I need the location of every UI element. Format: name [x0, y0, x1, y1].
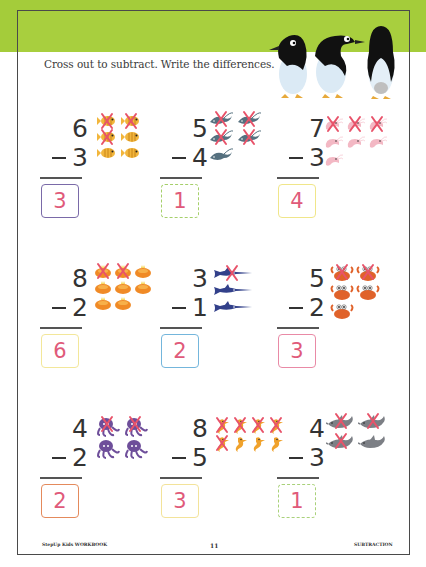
cross-out-mark-icon — [233, 416, 247, 434]
fish-icon[interactable] — [120, 146, 142, 160]
subtrahend: 2 — [72, 295, 88, 320]
fish-icon[interactable] — [96, 114, 118, 128]
fish-icon[interactable] — [96, 146, 118, 160]
answer-box[interactable]: 1 — [278, 484, 316, 518]
answer-box[interactable]: 6 — [41, 334, 79, 368]
cross-out-mark-icon — [370, 115, 384, 133]
answer-box[interactable]: 2 — [41, 484, 79, 518]
sea-urchin-icon[interactable] — [94, 264, 112, 278]
cross-out-mark-icon — [215, 434, 229, 452]
footer-series-title: StepUp Kids WORKBOOK — [42, 542, 107, 547]
stingray-icon[interactable] — [236, 112, 262, 128]
penguins-illustration — [265, 22, 405, 100]
minuend: 7 — [305, 116, 325, 141]
answer-box[interactable]: 1 — [161, 184, 199, 218]
pictures-group — [323, 117, 387, 169]
pictures-group — [94, 264, 152, 310]
pictures-group — [326, 414, 388, 452]
fish-icon[interactable] — [120, 130, 142, 144]
footer-page-number: 11 — [210, 542, 218, 549]
answer-box[interactable]: 3 — [278, 334, 316, 368]
crab-icon[interactable] — [330, 303, 354, 320]
minus-sign — [289, 157, 303, 159]
answer-box[interactable]: 2 — [161, 334, 199, 368]
swordfish-icon[interactable] — [212, 266, 252, 281]
pictures-group — [214, 418, 284, 452]
cross-out-mark-icon — [335, 263, 349, 281]
minuend: 8 — [68, 266, 88, 291]
minuend: 8 — [188, 416, 208, 441]
answer-line — [277, 477, 319, 479]
seahorse-icon[interactable] — [232, 436, 248, 452]
seahorse-icon[interactable] — [250, 418, 266, 434]
dolphin-icon[interactable] — [358, 434, 388, 452]
cross-out-mark-icon — [100, 128, 114, 146]
cross-out-mark-icon — [361, 263, 375, 281]
shrimp-icon[interactable] — [367, 117, 387, 133]
cross-out-mark-icon — [214, 110, 228, 128]
shrimp-icon[interactable] — [345, 117, 365, 133]
sea-urchin-icon[interactable] — [94, 296, 112, 310]
minuend: 4 — [68, 416, 88, 441]
shrimp-icon[interactable] — [345, 135, 365, 151]
subtrahend: 4 — [192, 145, 208, 170]
stingray-icon[interactable] — [208, 112, 234, 128]
stingray-icon[interactable] — [236, 130, 262, 146]
cross-out-mark-icon — [269, 416, 283, 434]
sea-urchin-icon[interactable] — [94, 280, 112, 294]
octopus-icon[interactable] — [94, 417, 120, 437]
pictures-group — [330, 265, 380, 320]
shrimp-icon[interactable] — [323, 135, 343, 151]
cross-out-mark-icon — [124, 112, 138, 130]
cross-out-mark-icon — [334, 432, 348, 450]
pictures-group — [208, 112, 262, 164]
answer-line — [277, 327, 319, 329]
swordfish-icon[interactable] — [212, 283, 252, 298]
cross-out-mark-icon — [366, 412, 380, 430]
fish-icon[interactable] — [120, 114, 142, 128]
shrimp-icon[interactable] — [323, 117, 343, 133]
octopus-icon[interactable] — [94, 439, 120, 459]
minus-sign — [172, 307, 186, 309]
crab-icon[interactable] — [330, 265, 354, 282]
octopus-icon[interactable] — [122, 417, 148, 437]
crab-icon[interactable] — [330, 284, 354, 301]
seahorse-icon[interactable] — [214, 436, 230, 452]
octopus-icon[interactable] — [122, 439, 148, 459]
subtrahend: 5 — [192, 445, 208, 470]
shrimp-icon[interactable] — [323, 153, 343, 169]
sea-urchin-icon[interactable] — [134, 280, 152, 294]
answer-box[interactable]: 3 — [161, 484, 199, 518]
seahorse-icon[interactable] — [268, 418, 284, 434]
minus-sign — [172, 457, 186, 459]
seahorse-icon[interactable] — [232, 418, 248, 434]
stingray-icon[interactable] — [208, 148, 234, 164]
cross-out-mark-icon — [215, 416, 229, 434]
dolphin-icon[interactable] — [358, 414, 388, 432]
stingray-icon[interactable] — [208, 130, 234, 146]
answer-line — [160, 477, 202, 479]
seahorse-icon[interactable] — [250, 436, 266, 452]
dolphin-icon[interactable] — [326, 434, 356, 452]
swordfish-icon[interactable] — [212, 300, 252, 315]
dolphin-icon[interactable] — [326, 414, 356, 432]
answer-box[interactable]: 4 — [278, 184, 316, 218]
seahorse-icon[interactable] — [214, 418, 230, 434]
answer-box[interactable]: 3 — [41, 184, 79, 218]
sea-urchin-icon[interactable] — [114, 280, 132, 294]
crab-icon[interactable] — [356, 265, 380, 282]
cross-out-mark-icon — [334, 412, 348, 430]
fish-icon[interactable] — [96, 130, 118, 144]
crab-icon[interactable] — [356, 284, 380, 301]
minus-sign — [289, 457, 303, 459]
sea-urchin-icon[interactable] — [134, 264, 152, 278]
answer-line — [160, 177, 202, 179]
sea-urchin-icon[interactable] — [114, 296, 132, 310]
minuend: 5 — [305, 266, 325, 291]
shrimp-icon[interactable] — [367, 135, 387, 151]
sea-urchin-icon[interactable] — [114, 264, 132, 278]
answer-line — [40, 327, 82, 329]
pictures-group — [94, 417, 148, 459]
subtrahend: 3 — [72, 145, 88, 170]
minuend: 6 — [68, 116, 88, 141]
